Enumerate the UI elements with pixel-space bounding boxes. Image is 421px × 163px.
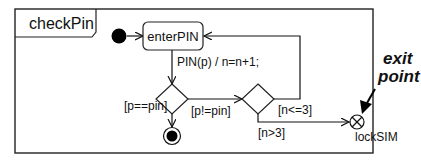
frame-name: checkPin xyxy=(29,15,94,32)
exit-point-label: lockSIM xyxy=(355,130,398,144)
annotation-line1: exit xyxy=(383,49,414,68)
guard-pin-correct: [p==pin] xyxy=(124,99,167,113)
annotation-line2: point xyxy=(377,67,421,86)
initial-node xyxy=(112,29,127,44)
exit-point-lock-sim xyxy=(350,115,364,129)
state-enterpin: enterPIN xyxy=(143,22,203,50)
state-label: enterPIN xyxy=(147,29,198,44)
guard-pin-wrong: [p!=pin] xyxy=(191,104,231,118)
guard-retry: [n<=3] xyxy=(278,103,312,117)
guard-lock: [n>3] xyxy=(258,126,285,140)
final-node xyxy=(164,128,181,145)
state-diagram: checkPin enterPIN PIN(p) / n=n+1; [p==pi… xyxy=(0,0,421,163)
decision-count xyxy=(242,84,274,114)
transition-label-pin: PIN(p) / n=n+1; xyxy=(177,55,259,69)
